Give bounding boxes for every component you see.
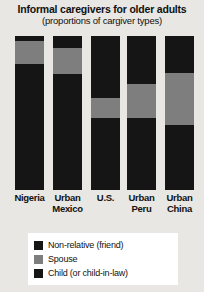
- category-label-line: Urban: [122, 192, 162, 203]
- category-label-line: U.S.: [86, 192, 126, 203]
- bar-segment: [127, 84, 156, 118]
- legend-label: Child (or child-in-law): [48, 268, 128, 278]
- bar-column: [53, 36, 82, 190]
- bar-segment: [91, 36, 120, 98]
- bar-segment: [15, 64, 44, 190]
- bar-segment: [165, 125, 194, 190]
- bar-column: [15, 36, 44, 190]
- legend-swatch-icon: [34, 241, 43, 250]
- bar-column: [91, 36, 120, 190]
- bar-segment: [15, 41, 44, 64]
- chart-subtitle: (proportions of cargiver types): [0, 15, 204, 27]
- bar-column: [165, 36, 194, 190]
- bar-segment: [53, 36, 82, 48]
- bar-segment: [91, 98, 120, 118]
- category-label-line: Mexico: [48, 203, 88, 214]
- category-axis-labels: NigeriaUrbanMexicoU.S.UrbanPeruUrbanChin…: [0, 192, 204, 228]
- legend-label: Spouse: [48, 254, 77, 264]
- title-block: Informal caregivers for older adults (pr…: [0, 3, 204, 27]
- bar-segment: [165, 73, 194, 125]
- bar-segment: [127, 118, 156, 190]
- bar-column: [127, 36, 156, 190]
- chart-title: Informal caregivers for older adults: [0, 3, 204, 15]
- category-label: Nigeria: [10, 192, 50, 203]
- legend-swatch-icon: [34, 255, 43, 264]
- bar-segment: [127, 36, 156, 84]
- chart-legend: Non-relative (friend)SpouseChild (or chi…: [28, 233, 178, 285]
- category-label-line: Urban: [160, 192, 200, 203]
- legend-item: Non-relative (friend): [34, 238, 172, 252]
- bar-segment: [53, 74, 82, 190]
- chart-container: Informal caregivers for older adults (pr…: [0, 0, 204, 292]
- category-label-line: Peru: [122, 203, 162, 214]
- category-label: U.S.: [86, 192, 126, 203]
- plot-area: [0, 36, 204, 190]
- legend-label: Non-relative (friend): [48, 240, 123, 250]
- legend-item: Child (or child-in-law): [34, 266, 172, 280]
- category-label-line: Urban: [48, 192, 88, 203]
- bar-segment: [53, 48, 82, 74]
- category-label: UrbanChina: [160, 192, 200, 214]
- category-label: UrbanPeru: [122, 192, 162, 214]
- bar-segment: [91, 118, 120, 190]
- category-label-line: China: [160, 203, 200, 214]
- legend-swatch-icon: [34, 269, 43, 278]
- bar-segment: [165, 36, 194, 73]
- category-label-line: Nigeria: [10, 192, 50, 203]
- legend-item: Spouse: [34, 252, 172, 266]
- category-label: UrbanMexico: [48, 192, 88, 214]
